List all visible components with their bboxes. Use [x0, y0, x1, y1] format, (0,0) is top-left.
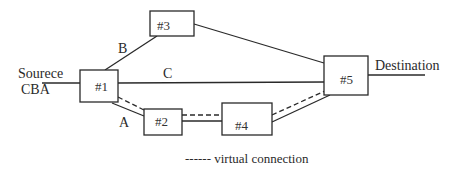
- edge-a-label: A: [119, 115, 130, 130]
- path-b-line: [105, 36, 157, 70]
- node-3-label: #3: [157, 18, 170, 33]
- path-c-line: [118, 82, 324, 83]
- node-1-label: #1: [95, 79, 108, 94]
- link-4-5: [272, 95, 330, 122]
- link-3-5: [194, 24, 324, 63]
- edge-b-label: B: [118, 41, 127, 56]
- node-4-label: #4: [235, 118, 249, 133]
- legend-virtual-connection: ------ virtual connection: [185, 151, 309, 166]
- edge-c-label: C: [163, 66, 172, 81]
- virtual-link-4-5: [272, 90, 327, 115]
- source-label: Sourece: [18, 66, 63, 81]
- node-5-label: #5: [340, 72, 353, 87]
- destination-label: Destination: [375, 58, 440, 73]
- source-cba-label: CBA: [21, 82, 51, 97]
- node-2-label: #2: [155, 114, 168, 129]
- virtual-link-1-2: [118, 97, 144, 110]
- network-diagram: #1 #2 #3 #4 #5 A B C Sourece CBA Destina…: [0, 0, 455, 169]
